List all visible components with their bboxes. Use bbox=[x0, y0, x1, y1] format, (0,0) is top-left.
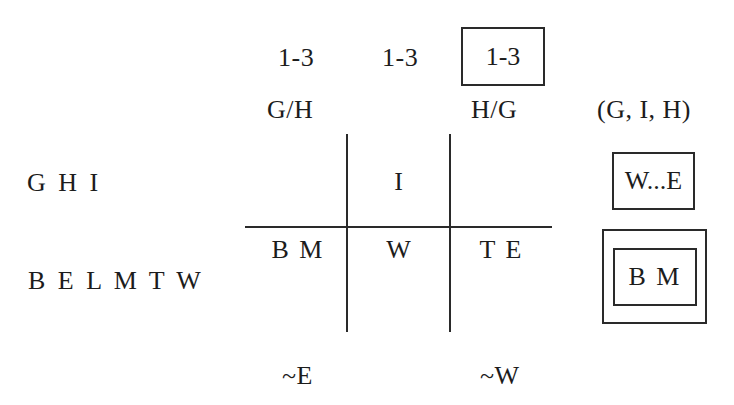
column-3-label: H/G bbox=[471, 97, 517, 123]
grid-vertical-line-left bbox=[346, 134, 348, 332]
summary-top-box: W...E bbox=[612, 152, 695, 210]
summary-bottom-inner-box: B M bbox=[613, 248, 697, 306]
footer-label-right: ~W bbox=[480, 363, 520, 389]
row-label-bottom: B E L M T W bbox=[28, 268, 204, 294]
grid-cell-bottom-middle: W bbox=[348, 237, 449, 263]
summary-top-text: W...E bbox=[625, 168, 683, 194]
footer-label-left: ~E bbox=[282, 363, 313, 389]
column-3-range-box: 1-3 bbox=[461, 27, 545, 86]
summary-column-label: (G, I, H) bbox=[597, 97, 691, 123]
grid-cell-bottom-left: B M bbox=[250, 237, 346, 263]
grid-horizontal-line bbox=[245, 226, 552, 228]
row-label-top: G H I bbox=[27, 170, 101, 196]
summary-bottom-text: B M bbox=[629, 264, 682, 290]
grid-cell-bottom-right: T E bbox=[451, 237, 552, 263]
column-2-range: 1-3 bbox=[382, 45, 418, 71]
grid-cell-top-middle: I bbox=[348, 169, 449, 195]
column-1-label: G/H bbox=[267, 97, 313, 123]
grid-vertical-line-right bbox=[449, 134, 451, 332]
column-3-range: 1-3 bbox=[486, 44, 521, 70]
column-1-range: 1-3 bbox=[278, 45, 314, 71]
